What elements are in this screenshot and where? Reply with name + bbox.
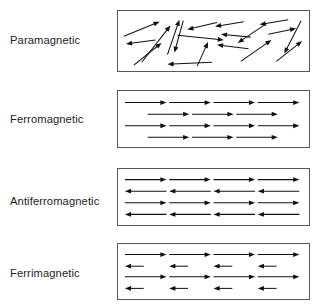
spin-arrows [118,11,309,71]
arrow-shaft [264,20,288,24]
arrow-shaft [222,45,249,48]
arrow-head [167,62,173,67]
spin-arrows [118,169,309,225]
arrow-head [249,252,255,257]
arrow-shaft [220,22,244,26]
arrow-shaft [192,23,217,29]
arrow-head [169,286,175,291]
arrow-head [169,212,175,217]
arrow-head [205,177,211,182]
arrow-head [238,38,244,43]
arrow-head [187,26,194,31]
arrow-head [205,200,211,205]
arrow-head [215,23,221,28]
arrow-head [258,286,264,291]
spin-arrows [118,91,309,147]
arrow-head [205,252,211,257]
arrow-head [169,264,175,269]
arrow-head [205,274,211,279]
arrow-head [265,40,271,45]
magnetic-ordering-diagram: ParamagneticFerromagneticAntiferromagnet… [0,0,321,308]
arrow-shaft [268,29,291,34]
arrow-head [221,32,227,37]
arrow-head [249,274,255,279]
arrow-head [160,123,166,128]
arrow-head [249,200,255,205]
arrow-shaft [177,35,219,39]
arrow-head [125,212,131,217]
box-ferromagnetic [117,90,310,148]
arrow-head [125,286,131,291]
arrow-head [126,41,132,46]
arrow-head [183,135,189,140]
spin-arrows [118,244,309,299]
arrow-head [160,200,166,205]
arrow-head [217,43,223,48]
arrow-head [260,21,266,26]
arrow-head [205,100,211,105]
arrow-head [160,100,166,105]
box-paramagnetic [117,10,310,72]
arrow-head [153,22,160,27]
arrow-head [174,46,179,52]
arrow-head [160,177,166,182]
arrow-head [293,200,299,205]
arrow-head [293,177,299,182]
label-ferromagnetic: Ferromagnetic [10,114,83,125]
arrow-shaft [242,24,267,41]
arrow-shaft [142,29,168,62]
arrow-head [272,112,278,117]
arrow-head [258,212,264,217]
arrow-head [214,189,220,194]
arrow-shaft [124,24,155,37]
arrow-shaft [172,62,212,64]
arrow-head [249,100,255,105]
arrow-head [258,189,264,194]
box-ferrimagnetic [117,243,310,300]
box-antiferromagnetic [117,168,310,226]
arrow-head [160,274,166,279]
arrow-shaft [134,46,158,65]
arrow-head [272,135,278,140]
arrow-head [214,286,220,291]
arrow-head [214,264,220,269]
arrow-head [125,264,131,269]
arrow-head [169,189,175,194]
arrow-head [293,123,299,128]
arrow-head [293,274,299,279]
label-antiferromagnetic: Antiferromagnetic [10,196,99,207]
arrow-head [249,123,255,128]
label-paramagnetic: Paramagnetic [10,35,80,46]
arrow-head [227,135,233,140]
arrow-head [125,189,131,194]
arrow-head [249,177,255,182]
arrow-head [160,252,166,257]
label-ferrimagnetic: Ferrimagnetic [10,268,80,279]
arrow-shaft [131,40,156,43]
arrow-head [175,20,180,26]
arrow-head [258,264,264,269]
arrow-head [293,252,299,257]
arrow-head [203,42,208,48]
arrow-head [218,37,224,42]
arrow-head [165,26,171,32]
arrow-head [205,123,211,128]
arrow-head [227,112,233,117]
arrow-head [293,100,299,105]
arrow-shaft [241,43,268,61]
arrow-head [183,112,189,117]
arrow-head [214,212,220,217]
